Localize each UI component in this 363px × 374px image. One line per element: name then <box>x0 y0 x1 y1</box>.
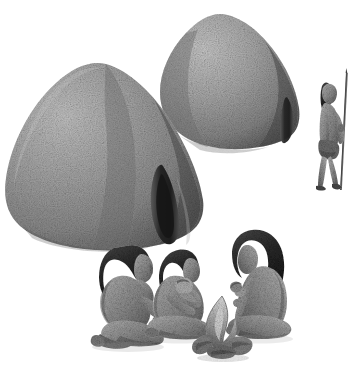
ground-shadow-middle <box>148 335 212 344</box>
ground-shadow-right <box>227 335 293 344</box>
ground-shadow-left <box>92 342 164 352</box>
illustration-canvas: Prehistoric camp scene with dome huts, s… <box>0 0 363 374</box>
